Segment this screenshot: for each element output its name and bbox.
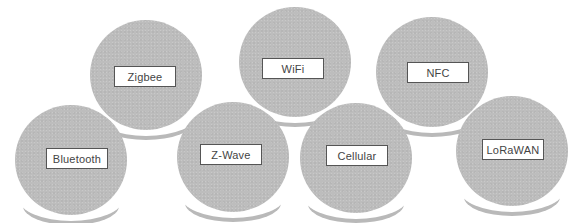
node-cellular: Cellular	[300, 103, 412, 223]
node-label: Zigbee	[114, 66, 176, 87]
node-lorawan: LoRaWAN	[456, 96, 568, 220]
node-label: Cellular	[326, 145, 388, 166]
node-label: Z-Wave	[200, 144, 262, 165]
node-z-wave: Z-Wave	[177, 102, 289, 223]
node-label: NFC	[407, 62, 469, 83]
node-bluetooth: Bluetooth	[15, 105, 127, 223]
node-label: WiFi	[262, 58, 324, 79]
node-label: LoRaWAN	[482, 139, 544, 160]
node-label: Bluetooth	[46, 148, 108, 169]
